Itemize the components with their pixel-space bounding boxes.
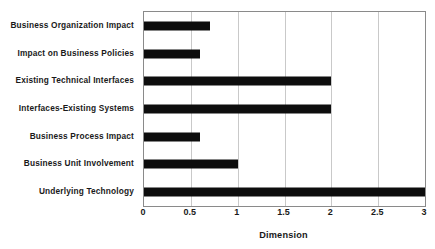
x-tick-label: 2 <box>328 207 333 217</box>
x-tick-label: 3 <box>421 207 426 217</box>
x-tick-label: 1.5 <box>277 207 290 217</box>
x-tick-label: 0.5 <box>184 207 197 217</box>
bar <box>144 21 210 30</box>
category-label: Impact on Business Policies <box>17 48 134 58</box>
x-tick-label: 0 <box>140 207 145 217</box>
bar <box>144 160 238 169</box>
bar <box>144 132 200 141</box>
bar <box>144 105 331 114</box>
category-axis: Business Organization ImpactImpact on Bu… <box>0 11 138 205</box>
x-axis-tick-labels: 00.511.522.53 <box>143 207 424 223</box>
x-axis-title: Dimension <box>143 230 424 240</box>
bar <box>144 49 200 58</box>
x-tick-label: 2.5 <box>371 207 384 217</box>
bar <box>144 188 425 197</box>
bar <box>144 77 331 86</box>
category-label: Business Unit Involvement <box>24 158 134 168</box>
bars-layer <box>144 12 425 206</box>
plot-area <box>143 11 426 207</box>
category-label: Underlying Technology <box>39 186 134 196</box>
category-label: Existing Technical Interfaces <box>15 75 134 85</box>
category-label: Business Organization Impact <box>10 20 134 30</box>
bar-chart: Business Organization ImpactImpact on Bu… <box>0 0 435 249</box>
category-label: Business Process Impact <box>30 131 134 141</box>
category-label: Interfaces-Existing Systems <box>19 103 134 113</box>
x-tick-label: 1 <box>234 207 239 217</box>
